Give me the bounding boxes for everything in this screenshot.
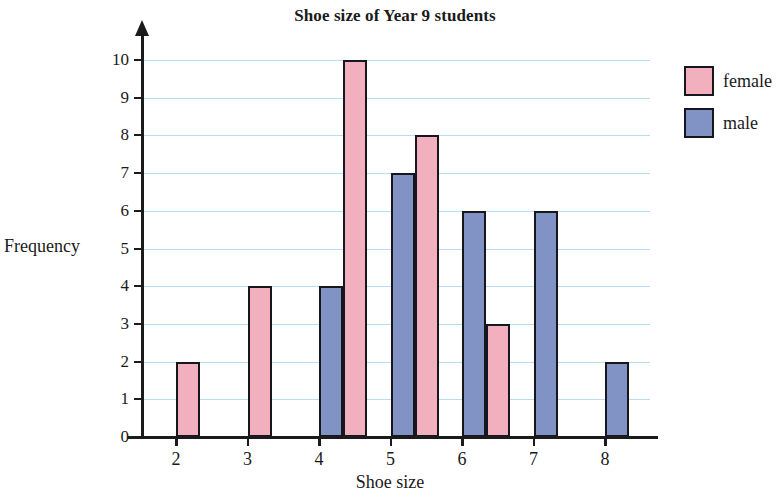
- y-axis-tick: [134, 59, 143, 61]
- y-axis-tick: [134, 285, 143, 287]
- y-axis-tick: [134, 248, 143, 250]
- y-axis-tick-label: 10: [95, 51, 129, 68]
- bar-male-size-8: [605, 362, 629, 437]
- y-axis-line: [141, 30, 144, 439]
- x-axis-tick: [604, 437, 607, 446]
- y-axis-tick: [134, 97, 143, 99]
- y-axis-tick: [134, 361, 143, 363]
- y-axis-tick-label: 8: [95, 126, 129, 143]
- plot-area: [143, 60, 650, 437]
- y-axis-tick-label: 2: [95, 353, 129, 370]
- x-axis-tick-label: 3: [228, 449, 268, 469]
- y-axis-tick-label: 4: [95, 277, 129, 294]
- y-axis-tick: [134, 436, 143, 438]
- legend-item-female: female: [684, 66, 781, 96]
- bar-male-size-4: [319, 286, 343, 437]
- gridline: [143, 135, 650, 136]
- x-axis-tick: [533, 437, 536, 446]
- x-axis-tick: [175, 437, 178, 446]
- legend-label-male: male: [723, 114, 758, 133]
- y-axis-tick-label: 7: [95, 164, 129, 181]
- y-axis-tick-label: 1: [95, 390, 129, 407]
- x-axis-tick: [390, 437, 393, 446]
- y-axis-tick-label: 9: [95, 89, 129, 106]
- y-axis-tick: [134, 323, 143, 325]
- y-axis-arrow-icon: [135, 20, 149, 36]
- bar-female-size-3: [248, 286, 272, 437]
- legend-label-female: female: [723, 72, 772, 91]
- legend-swatch-male: [684, 108, 714, 138]
- gridline: [143, 98, 650, 99]
- legend: femalemale: [684, 66, 781, 150]
- bar-female-size-6: [486, 324, 510, 437]
- x-axis-tick: [461, 437, 464, 446]
- x-axis-tick-label: 6: [442, 449, 482, 469]
- x-axis-tick-label: 8: [585, 449, 625, 469]
- x-axis-tick-label: 5: [371, 449, 411, 469]
- y-axis-tick: [134, 398, 143, 400]
- chart-title: Shoe size of Year 9 students: [190, 6, 600, 26]
- bar-female-size-4: [343, 60, 367, 437]
- legend-swatch-female: [684, 66, 714, 96]
- bar-male-size-5: [391, 173, 415, 437]
- x-axis-line: [128, 436, 658, 439]
- legend-item-male: male: [684, 108, 781, 138]
- y-axis-tick: [134, 134, 143, 136]
- bar-male-size-6: [462, 211, 486, 437]
- bar-female-size-5: [415, 135, 439, 437]
- x-axis-tick-label: 2: [156, 449, 196, 469]
- x-axis-tick: [318, 437, 321, 446]
- bar-female-size-2: [176, 362, 200, 437]
- x-axis-title: Shoe size: [290, 472, 490, 493]
- y-axis-tick-label: 3: [95, 315, 129, 332]
- y-axis-tick: [134, 210, 143, 212]
- y-axis-tick-label: 6: [95, 202, 129, 219]
- bar-male-size-7: [534, 211, 558, 437]
- x-axis-tick: [247, 437, 250, 446]
- gridline: [143, 60, 650, 61]
- y-axis-title: Frequency: [4, 236, 114, 257]
- y-axis-tick: [134, 172, 143, 174]
- x-axis-tick-label: 7: [514, 449, 554, 469]
- y-axis-tick-label: 0: [95, 428, 129, 445]
- bar-chart: Shoe size of Year 9 students 01234567891…: [0, 0, 781, 497]
- x-axis-tick-label: 4: [299, 449, 339, 469]
